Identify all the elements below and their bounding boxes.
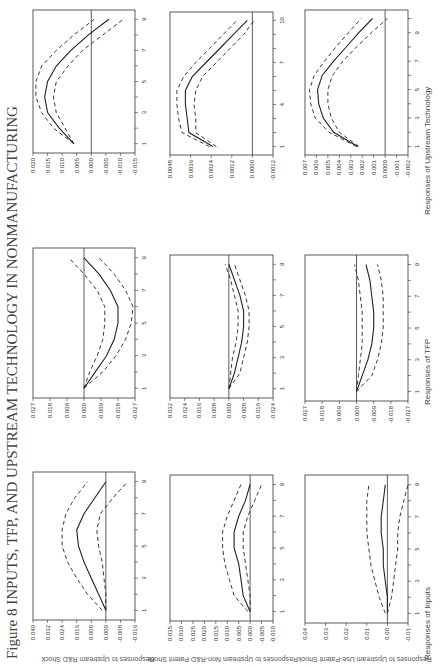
y-tick-label: 0.0000	[249, 159, 255, 178]
y-tick-label: 0.020	[30, 157, 36, 173]
x-tick-label: 4	[279, 102, 285, 106]
y-tick-label: -0.008	[117, 624, 123, 642]
y-tick-label: 0.000	[247, 625, 253, 641]
y-tick-label: 0.000	[88, 157, 94, 173]
y-tick-label: 0.009	[64, 402, 70, 418]
plot-frame	[33, 472, 135, 620]
x-tick-label: 5	[414, 87, 420, 91]
x-tick-label: 7	[279, 514, 285, 518]
y-tick-label: 0.015	[213, 625, 219, 641]
x-tick-label: 7	[141, 48, 147, 52]
figure-title: Figure 8 INPUTS, TFP, AND UPSTREAM TECHN…	[1, 0, 23, 659]
x-tick-label: 3	[414, 357, 420, 361]
y-tick-label: 0.0012	[229, 159, 235, 178]
x-tick-label: 1	[141, 608, 147, 612]
x-tick-label: 1	[141, 141, 147, 145]
x-tick-label: 5	[414, 547, 420, 551]
y-tick-label: 0.018	[319, 405, 325, 421]
y-tick-label: -0.0012	[270, 159, 276, 180]
y-tick-label: -0.024	[270, 402, 276, 420]
y-tick-label: 0.030	[178, 625, 184, 641]
x-tick-label: 5	[279, 324, 285, 328]
confidence-band-line	[243, 485, 261, 612]
x-tick-label: 1	[279, 144, 285, 148]
confidence-band-line	[84, 258, 133, 388]
x-tick-label: 5	[279, 546, 285, 550]
y-tick-label: -0.016	[132, 624, 138, 642]
y-tick-label: 0.000	[354, 405, 360, 421]
plot-frame	[170, 12, 273, 155]
x-tick-label: 3	[279, 577, 285, 581]
x-tick-label: 7	[141, 511, 147, 515]
x-tick-label: 3	[414, 579, 420, 583]
confidence-band-line	[194, 20, 254, 146]
irf-panel-upstream-use-patent-shock-responses-of-inputs: 0.040.030.020.010.00-0.0113579	[303, 473, 439, 661]
x-tick-label: 3	[141, 110, 147, 114]
y-tick-label: 0.010	[224, 625, 230, 641]
y-tick-label: -0.010	[270, 625, 276, 643]
x-tick-label: 1	[279, 386, 285, 390]
y-tick-label: 0.018	[47, 402, 53, 418]
x-tick-label: 9	[414, 262, 420, 266]
y-tick-label: 0.005	[325, 159, 331, 175]
x-tick-label: 7	[414, 59, 420, 63]
irf-panel-upstream-non-r-d-patent-shock-responses-of-tfp: 0.0320.0240.0160.0080.000-0.008-0.016-0.…	[168, 253, 311, 436]
y-tick-label: 0.008	[88, 624, 94, 640]
y-tick-label: 0.032	[167, 402, 173, 418]
irf-panel-upstream-non-r-d-patent-shock-responses-of-upstream-technology: 0.00480.00360.00240.00120.0000-0.0012147…	[168, 10, 311, 193]
x-tick-label: 5	[414, 326, 420, 330]
x-tick-label: 9	[414, 30, 420, 34]
y-tick-label: -0.01	[405, 627, 411, 641]
y-tick-label: 0.00	[384, 627, 390, 639]
y-tick-label: 0.005	[236, 625, 242, 641]
y-tick-label: 0.040	[30, 624, 36, 640]
confidence-band-line	[310, 19, 362, 147]
y-tick-label: 0.0048	[167, 159, 173, 178]
x-tick-label: 3	[141, 353, 147, 357]
x-tick-label: 5	[141, 79, 147, 83]
y-tick-label: 0.016	[74, 624, 80, 640]
confidence-band-line	[225, 264, 238, 388]
confidence-band-line	[328, 19, 388, 147]
confidence-band-line	[97, 482, 128, 611]
y-tick-label: 0.006	[313, 159, 319, 175]
y-tick-label: 0.010	[59, 157, 65, 173]
y-tick-label: 0.025	[190, 625, 196, 641]
y-tick-label: -0.027	[132, 402, 138, 420]
plot-frame	[170, 255, 273, 398]
y-tick-label: -0.009	[371, 405, 377, 423]
y-tick-label: -0.005	[259, 625, 265, 643]
y-tick-label: 0.0036	[188, 159, 194, 178]
y-tick-label: 0.000	[81, 402, 87, 418]
y-tick-label: 0.02	[343, 627, 349, 639]
x-tick-label: 9	[141, 17, 147, 21]
confidence-band-line	[69, 258, 105, 388]
x-tick-label: 9	[414, 482, 420, 486]
y-tick-label: -0.001	[394, 159, 400, 177]
confidence-band-line	[53, 19, 123, 143]
x-tick-label: 1	[279, 609, 285, 613]
irf-panel-upstream-use-patent-shock-responses-of-tfp: 0.0270.0180.0090.000-0.009-0.018-0.02713…	[303, 253, 439, 439]
y-tick-label: -0.016	[255, 402, 261, 420]
impulse-response-line	[84, 258, 118, 388]
y-tick-label: 0.04	[302, 627, 308, 639]
x-tick-label: 3	[141, 576, 147, 580]
confidence-band-line	[62, 482, 102, 611]
x-tick-label: 7	[279, 293, 285, 297]
y-tick-label: 0.027	[30, 402, 36, 418]
plot-frame	[33, 10, 135, 153]
irf-panel-upstream-r-d-shock-responses-of-inputs: 0.0400.0320.0240.0160.0080.000-0.008-0.0…	[31, 470, 173, 658]
y-tick-label: -0.005	[103, 157, 109, 175]
y-tick-label: 0.016	[196, 402, 202, 418]
x-tick-label: 7	[414, 294, 420, 298]
y-tick-label: 0.001	[371, 159, 377, 175]
y-tick-label: 0.000	[103, 624, 109, 640]
x-tick-label: 1	[414, 389, 420, 393]
y-tick-label: 0.01	[364, 627, 370, 639]
impulse-response-line	[318, 19, 373, 147]
x-tick-label: 9	[141, 255, 147, 259]
y-tick-label: 0.0024	[208, 159, 214, 178]
y-tick-label: 0.032	[45, 624, 51, 640]
x-tick-label: 9	[141, 479, 147, 483]
y-tick-label: -0.015	[132, 157, 138, 175]
